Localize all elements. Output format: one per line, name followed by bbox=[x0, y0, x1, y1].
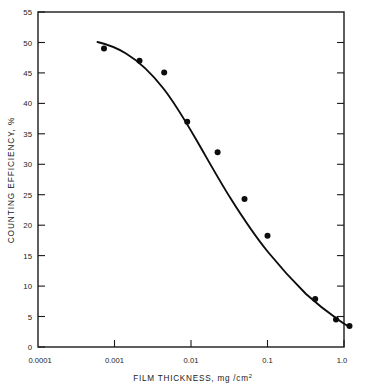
x-tick-label: 0.01 bbox=[184, 356, 199, 365]
y-tick-label: 35 bbox=[23, 130, 32, 139]
y-tick-label: 45 bbox=[23, 69, 32, 78]
data-point bbox=[184, 119, 190, 125]
y-tick-label: 55 bbox=[23, 8, 32, 17]
x-axis-label: FILM THICKNESS, mg /cm2 bbox=[133, 373, 253, 384]
data-point bbox=[101, 46, 107, 52]
data-point bbox=[161, 69, 167, 75]
chart-svg: 0 5 10 15 20 25 30 35 40 45 50 55 0.0001… bbox=[0, 0, 368, 392]
y-tick-label: 5 bbox=[28, 313, 33, 322]
data-point bbox=[333, 317, 339, 323]
y-tick-label: 20 bbox=[23, 221, 32, 230]
data-point bbox=[347, 323, 353, 329]
x-tick-label: 1.0 bbox=[337, 356, 348, 365]
y-tick-label: 40 bbox=[23, 99, 32, 108]
y-tick-label: 10 bbox=[23, 282, 32, 291]
data-point bbox=[137, 58, 143, 64]
data-point bbox=[215, 149, 221, 155]
chart-figure: 0 5 10 15 20 25 30 35 40 45 50 55 0.0001… bbox=[0, 0, 368, 392]
y-axis-label: COUNTING EFFICIENCY, % bbox=[6, 117, 16, 244]
data-point bbox=[265, 233, 271, 239]
x-axis-label-superscript: 2 bbox=[249, 373, 253, 379]
x-axis-label-text: FILM THICKNESS, mg /cm bbox=[133, 374, 249, 383]
y-tick-label: 25 bbox=[23, 191, 32, 200]
x-tick-label: 0.0001 bbox=[28, 356, 51, 365]
x-tick-label: 0.001 bbox=[105, 356, 124, 365]
figure-background bbox=[0, 0, 368, 392]
x-tick-label: 0.1 bbox=[262, 356, 273, 365]
y-tick-label: 50 bbox=[23, 39, 32, 48]
data-point bbox=[242, 196, 248, 202]
y-tick-label: 0 bbox=[28, 343, 33, 352]
y-tick-label: 30 bbox=[23, 160, 32, 169]
data-point bbox=[312, 296, 318, 302]
y-tick-label: 15 bbox=[23, 252, 32, 261]
